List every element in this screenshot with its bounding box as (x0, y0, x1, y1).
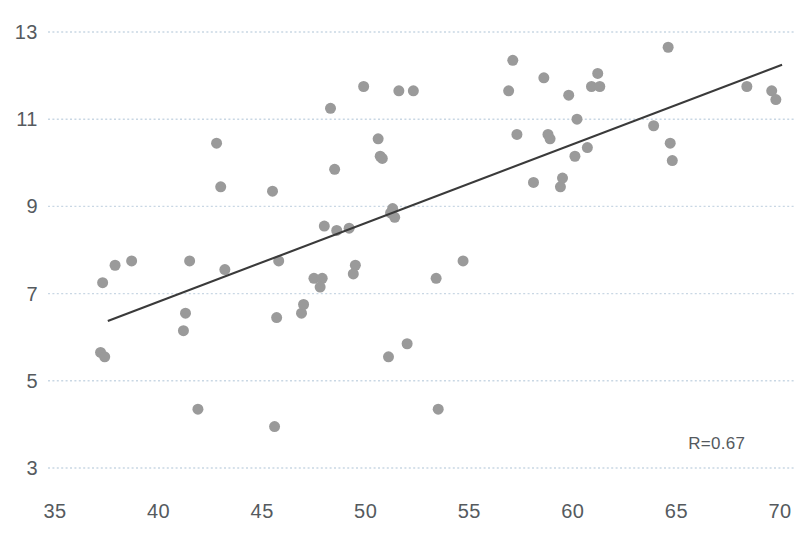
y-tick-label: 5 (0, 369, 38, 392)
scatter-point (507, 55, 518, 66)
trendline-path (108, 65, 782, 321)
scatter-point (545, 133, 556, 144)
scatter-point (431, 273, 442, 284)
scatter-point (319, 221, 330, 232)
scatter-point (215, 181, 226, 192)
scatter-point (211, 138, 222, 149)
scatter-point (667, 155, 678, 166)
scatter-point (648, 120, 659, 131)
scatter-point (663, 42, 674, 53)
scatter-point (433, 404, 444, 415)
scatter-point (393, 85, 404, 96)
scatter-point (538, 72, 549, 83)
scatter-point (528, 177, 539, 188)
plot-area (0, 0, 799, 560)
correlation-annotation: R=0.67 (688, 434, 745, 454)
y-tick-label: 9 (0, 195, 38, 218)
scatter-point (582, 142, 593, 153)
scatter-point (219, 264, 230, 275)
scatter-point (572, 114, 583, 125)
y-tick-label: 13 (0, 21, 38, 44)
scatter-point (373, 133, 384, 144)
x-tick-label: 70 (768, 500, 791, 523)
scatter-point (741, 81, 752, 92)
x-tick-label: 35 (43, 500, 66, 523)
scatter-point (99, 351, 110, 362)
scatter-point (770, 94, 781, 105)
x-tick-label: 60 (561, 500, 584, 523)
scatter-point (298, 299, 309, 310)
scatter-points (95, 42, 781, 432)
scatter-point (192, 404, 203, 415)
scatter-point (383, 351, 394, 362)
scatter-point (563, 90, 574, 101)
scatter-point (348, 268, 359, 279)
gridlines (48, 32, 795, 468)
scatter-point (178, 325, 189, 336)
scatter-point (377, 153, 388, 164)
scatter-point (269, 421, 280, 432)
trendline (108, 65, 782, 321)
x-tick-label: 40 (147, 500, 170, 523)
y-tick-label: 11 (0, 108, 38, 131)
scatter-point (271, 312, 282, 323)
scatter-point (594, 81, 605, 92)
scatter-point (402, 338, 413, 349)
scatter-point (184, 255, 195, 266)
scatter-point (126, 255, 137, 266)
scatter-point (110, 260, 121, 271)
scatter-point (267, 186, 278, 197)
scatter-point (665, 138, 676, 149)
x-tick-label: 65 (665, 500, 688, 523)
scatter-point (503, 85, 514, 96)
scatter-point (315, 282, 326, 293)
scatter-point (408, 85, 419, 96)
scatter-point (329, 164, 340, 175)
scatter-point (511, 129, 522, 140)
scatter-point (569, 151, 580, 162)
scatter-point (358, 81, 369, 92)
scatter-point (458, 255, 469, 266)
scatter-point (180, 308, 191, 319)
scatter-point (592, 68, 603, 79)
y-tick-label: 3 (0, 457, 38, 480)
x-tick-label: 45 (251, 500, 274, 523)
scatter-chart: 13119753 3540455055606570 R=0.67 (0, 0, 799, 560)
scatter-point (557, 173, 568, 184)
scatter-point (325, 103, 336, 114)
x-tick-label: 50 (354, 500, 377, 523)
x-tick-label: 55 (458, 500, 481, 523)
y-tick-label: 7 (0, 282, 38, 305)
scatter-point (97, 277, 108, 288)
